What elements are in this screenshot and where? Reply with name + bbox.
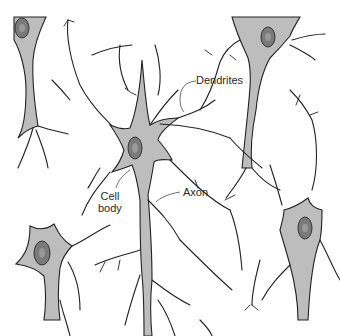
label-cell-body: Cell body: [98, 190, 122, 214]
dendrites-leader: [180, 81, 196, 112]
label-cell-body-line2: body: [98, 202, 122, 214]
label-dendrites: Dendrites: [196, 74, 243, 86]
neuron-diagram: [0, 0, 340, 336]
neuron-bottom-left: [16, 224, 110, 320]
label-axon: Axon: [183, 186, 208, 198]
neuron-top-right: [226, 17, 325, 198]
neuron-right: [280, 198, 322, 320]
axon-leader: [156, 192, 180, 202]
neuron-top-left: [14, 17, 68, 168]
label-cell-body-line1: Cell: [98, 190, 122, 202]
cell-body-leader: [116, 170, 130, 188]
